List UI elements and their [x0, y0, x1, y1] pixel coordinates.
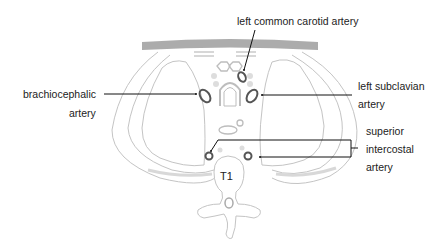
rib-ring: [128, 55, 342, 174]
label-left-subclavian-line1: left subclavian: [358, 80, 425, 92]
left-subclavian-artery: [244, 88, 259, 105]
label-t1-vertebra: T1: [220, 170, 233, 182]
esophagus: [219, 126, 237, 134]
aortic-arch: [220, 83, 240, 106]
right-lung: [142, 61, 205, 166]
label-brachiocephalic-line2: artery: [69, 107, 96, 119]
label-superior-intercostal-line1: superior: [366, 125, 404, 137]
leader-superior-intercostal: [211, 140, 351, 157]
label-brachiocephalic-line1: brachiocephalic: [23, 88, 96, 100]
leader-left-common-carotid: [244, 30, 255, 70]
superior-intercostal-artery-right: [206, 153, 213, 160]
anterior-chest-band: [142, 39, 318, 50]
label-superior-intercostal-line2: intercostal: [366, 143, 414, 155]
left-lung: [260, 60, 324, 166]
superior-intercostal-artery-left: [245, 153, 252, 160]
left-common-carotid-artery: [237, 71, 248, 83]
brachiocephalic-artery: [197, 88, 212, 105]
label-superior-intercostal-line3: artery: [366, 161, 393, 173]
label-left-subclavian-line2: artery: [358, 98, 385, 110]
label-left-common-carotid-artery: left common carotid artery: [237, 15, 358, 27]
veins-hexagons: [217, 62, 242, 71]
small-vessel: [237, 120, 243, 126]
aortic-arch-inner: [224, 88, 236, 107]
anterior-muscle-lines: [194, 52, 256, 56]
